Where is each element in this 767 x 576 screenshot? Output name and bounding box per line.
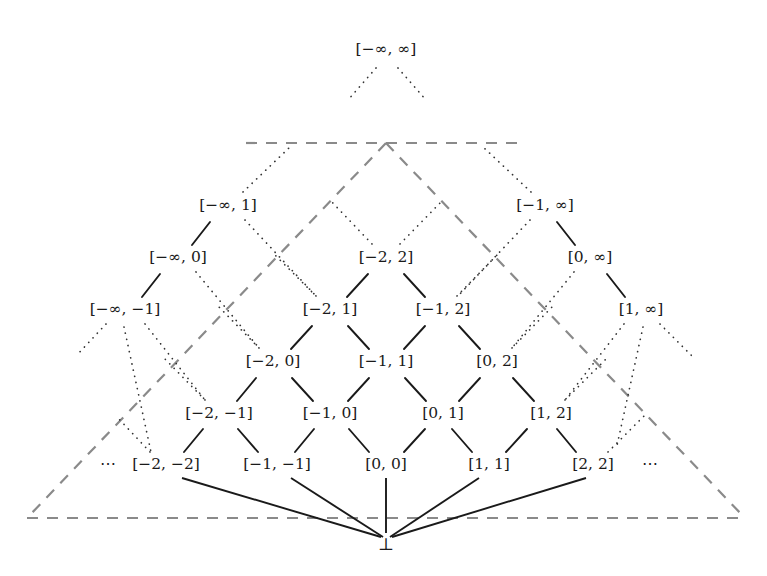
dotted-edge-m2-m2-up-left xyxy=(118,418,150,452)
node-1-2[interactable]: [1, 2] xyxy=(530,404,572,422)
dotted-edge-top-left xyxy=(348,68,376,100)
node-1-1[interactable]: [1, 1] xyxy=(468,455,510,473)
dotted-edge-m1-2-up-right xyxy=(457,252,500,296)
edge-p1-1-p0-1 xyxy=(452,429,472,452)
edge-m2-1-m2-2 xyxy=(347,274,368,297)
node-neg2-neg2[interactable]: [−2, −2] xyxy=(132,455,200,473)
dotted-edge-top-right xyxy=(398,68,426,100)
edge-p0-1-m1-1 xyxy=(405,378,426,401)
node-neg2-0[interactable]: [−2, 0] xyxy=(246,352,301,370)
edge-m1-0-m2-0 xyxy=(292,378,313,401)
node-neg2-2[interactable]: [−2, 2] xyxy=(359,248,414,266)
node-neg2-1[interactable]: [−2, 1] xyxy=(303,300,358,318)
dotted-edge-p0-2-up-right xyxy=(512,306,553,348)
edge-m1-0-m1-1 xyxy=(348,378,369,401)
node-neg1-inf[interactable]: [−1, ∞] xyxy=(516,196,574,214)
dotted-edge-p1inf-lower xyxy=(616,327,643,450)
edge-p0-1-p0-2 xyxy=(459,378,480,401)
edge-m1-m1-m2-m1 xyxy=(238,429,258,452)
dotted-edge-m1inf-up xyxy=(482,146,531,192)
node-0-2[interactable]: [0, 2] xyxy=(476,352,518,370)
edge-p2-2-p1-2 xyxy=(557,429,576,452)
edge-m1inf-p0inf xyxy=(557,222,575,245)
node-0-inf[interactable]: [0, ∞] xyxy=(568,248,613,266)
dotted-edge-m2-2-up-left xyxy=(330,200,372,244)
ellipsis-left: ⋯ xyxy=(100,455,116,473)
ellipsis-right: ⋯ xyxy=(642,455,658,473)
node-neg-inf-0[interactable]: [−∞, 0] xyxy=(149,248,207,266)
edge-bottom-p1-1 xyxy=(390,478,479,537)
dotted-edge-p0inf-down-left xyxy=(512,272,574,348)
node-neg2-neg1[interactable]: [−2, −1] xyxy=(185,404,253,422)
node-labels-group: [−∞, ∞] [−∞, 1] [−∞, 0] [−∞, −1] [−1, ∞]… xyxy=(90,40,664,554)
dotted-edge-p1-2-up-right xyxy=(565,358,607,400)
edge-bottom-m1-m1 xyxy=(291,478,383,537)
node-top-interval[interactable]: [−∞, ∞] xyxy=(356,40,417,58)
edge-m1-1-m2-1 xyxy=(348,326,369,349)
dotted-edge-p2-2-up-right xyxy=(608,412,648,452)
node-neg-inf-neg1[interactable]: [−∞, −1] xyxy=(90,300,161,318)
bottom-fan-edges xyxy=(182,478,586,537)
edge-m1-m1-m1-0 xyxy=(295,429,314,452)
node-2-2[interactable]: [2, 2] xyxy=(572,455,614,473)
edge-m2-m1-m2-0 xyxy=(237,378,256,401)
dotted-edge-ninf1-down-right xyxy=(245,220,316,296)
node-neg1-1[interactable]: [−1, 1] xyxy=(359,352,414,370)
dotted-edge-m2-m1-up-left xyxy=(164,358,205,400)
edge-ninf0-ninf1 xyxy=(192,222,210,245)
node-1-inf[interactable]: [1, ∞] xyxy=(619,300,664,318)
edge-m2-0-m2-1 xyxy=(291,326,312,349)
edge-p0-2-m1-2 xyxy=(459,326,480,349)
edge-p0-0-p0-1 xyxy=(404,429,425,452)
edge-ninfm1-ninf0 xyxy=(142,274,160,297)
edge-m1-2-m2-2 xyxy=(404,274,425,297)
dotted-edge-m2-0-up-left xyxy=(218,306,259,348)
node-neg-inf-1[interactable]: [−∞, 1] xyxy=(199,196,257,214)
dotted-edge-ninfm1-lower xyxy=(124,327,151,452)
node-neg1-0[interactable]: [−1, 0] xyxy=(303,404,358,422)
dotted-edge-m2-2-up-right xyxy=(400,200,443,244)
node-0-0[interactable]: [0, 0] xyxy=(365,455,407,473)
edge-bottom-p2-2 xyxy=(392,478,586,537)
edge-p0-0-m1-0 xyxy=(349,429,369,452)
dotted-edge-ninf1-up xyxy=(243,146,291,192)
edge-m2-m2-m2-m1 xyxy=(184,429,203,452)
node-neg1-2[interactable]: [−1, 2] xyxy=(416,300,471,318)
edge-p1-1-p1-2 xyxy=(506,429,527,452)
lattice-diagram: [−∞, ∞] [−∞, 1] [−∞, 0] [−∞, −1] [−1, ∞]… xyxy=(0,0,767,576)
dotted-edge-m1inf-down-left xyxy=(458,220,530,296)
node-bottom-element[interactable]: ⊥ xyxy=(378,534,394,554)
node-neg1-neg1[interactable]: [−1, −1] xyxy=(243,455,311,473)
dotted-edge-ninfm1-down-left xyxy=(76,324,106,356)
edge-p1-2-p0-2 xyxy=(513,378,534,401)
node-0-1[interactable]: [0, 1] xyxy=(422,404,464,422)
edge-bottom-m2-m2 xyxy=(182,478,381,537)
dotted-edge-p1inf-down-right xyxy=(660,324,692,356)
edge-p0inf-p1inf xyxy=(607,274,625,297)
edge-m1-1-m1-2 xyxy=(404,326,425,349)
